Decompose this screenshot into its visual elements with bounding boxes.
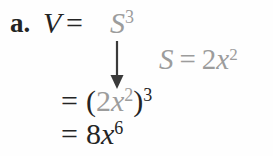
note-x-variable: x xyxy=(216,43,229,75)
close-paren: ) xyxy=(133,84,143,117)
step2-coefficient: 2 xyxy=(96,84,111,117)
equals-sign-step3: = xyxy=(61,119,78,149)
note-coefficient: 2 xyxy=(202,43,217,75)
note-exponent: 2 xyxy=(229,45,238,64)
step3-x-variable: x xyxy=(101,117,114,150)
step1-rhs-term: S3 xyxy=(110,8,134,38)
note-equals-sign: = xyxy=(180,43,196,75)
open-paren: ( xyxy=(86,84,96,117)
step2-outer-exponent: 3 xyxy=(143,85,152,105)
surface-variable: S xyxy=(110,6,125,39)
note-surface-variable: S xyxy=(159,43,174,75)
step2-rhs-term: (2x2)3 xyxy=(86,86,152,116)
substitution-note: S=2x2 xyxy=(159,45,238,74)
volume-variable: V xyxy=(43,8,61,38)
step2-inner-exponent: 2 xyxy=(124,85,133,105)
step3-rhs-term: 8x6 xyxy=(86,119,123,149)
math-solution-panel: a. V = S3 S=2x2 = (2x2)3 = 8x6 xyxy=(0,0,273,156)
step3-coefficient: 8 xyxy=(86,117,101,150)
step3-exponent: 6 xyxy=(114,118,123,138)
step1-exponent: 3 xyxy=(125,7,134,27)
step2-x-variable: x xyxy=(111,84,124,117)
equals-sign-step2: = xyxy=(61,86,78,116)
item-label: a. xyxy=(10,10,30,37)
equals-sign-step1: = xyxy=(66,8,83,38)
